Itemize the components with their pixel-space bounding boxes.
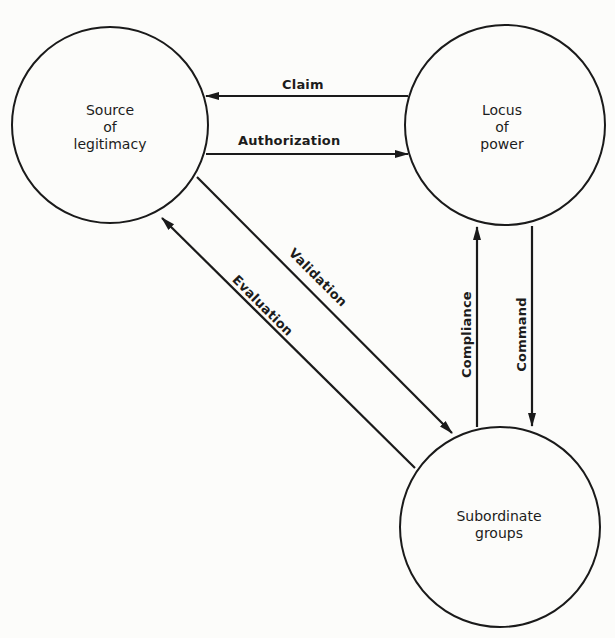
label-line: groups bbox=[456, 525, 541, 542]
label-line: of bbox=[480, 119, 523, 136]
label-line: Source bbox=[74, 102, 147, 119]
label-locus-of-power: Locus of power bbox=[480, 102, 523, 153]
edge-label-command: Command bbox=[514, 297, 529, 371]
label-subordinate-groups: Subordinate groups bbox=[456, 508, 541, 542]
label-line: of bbox=[74, 119, 147, 136]
edge-label-compliance: Compliance bbox=[459, 291, 474, 378]
label-line: Subordinate bbox=[456, 508, 541, 525]
label-line: power bbox=[480, 136, 523, 153]
label-line: Locus bbox=[480, 102, 523, 119]
label-source-of-legitimacy: Source of legitimacy bbox=[74, 102, 147, 153]
edge-label-claim: Claim bbox=[282, 77, 324, 92]
edge-label-authorization: Authorization bbox=[238, 133, 340, 148]
edge-validation-arrow bbox=[197, 177, 452, 433]
label-line: legitimacy bbox=[74, 136, 147, 153]
